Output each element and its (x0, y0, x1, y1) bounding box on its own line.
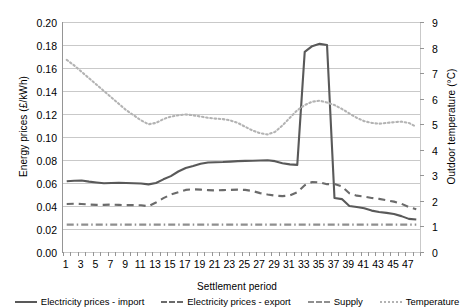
chart-legend: Electricity prices - import Electricity … (0, 296, 474, 307)
plot-area (62, 22, 420, 253)
x-tick-label: 13 (147, 259, 163, 269)
series-dashed (67, 182, 417, 209)
y-tick-label: 0.04 (23, 202, 57, 212)
x-tick-label: 7 (102, 259, 118, 269)
y-tick-label: 0.02 (23, 225, 57, 235)
x-tick-label: 27 (251, 259, 267, 269)
x-tick-label: 5 (87, 259, 103, 269)
x-tick-label: 39 (340, 259, 356, 269)
y2-tick-label: 6 (432, 95, 452, 105)
y-tick-label: 0.06 (23, 179, 57, 189)
y2-tick-label: 7 (432, 69, 452, 79)
y2-tick-label: 9 (432, 18, 452, 28)
y2-tick-label: 2 (432, 197, 452, 207)
x-tick-label: 23 (221, 259, 237, 269)
x-tick-label: 15 (162, 259, 178, 269)
x-tick-label: 45 (385, 259, 401, 269)
x-tick-label: 47 (400, 259, 416, 269)
legend-line-dashdot-icon (308, 301, 330, 303)
x-tick-label: 41 (355, 259, 371, 269)
y-tick-label: 0.12 (23, 110, 57, 120)
legend-line-solid-icon (15, 301, 37, 303)
y2-tick-label: 0 (432, 248, 452, 258)
legend-label: Supply (334, 296, 363, 307)
series-dotted (67, 60, 417, 135)
x-tick-label: 35 (311, 259, 327, 269)
x-tick-label: 25 (236, 259, 252, 269)
legend-item-temperature: Temperature (380, 296, 459, 307)
y2-tick-label: 4 (432, 146, 452, 156)
x-tick-label: 31 (281, 259, 297, 269)
x-tick-label: 29 (266, 259, 282, 269)
y2-tick-label: 8 (432, 44, 452, 54)
x-tick-label: 9 (117, 259, 133, 269)
y-tick-label: 0.14 (23, 87, 57, 97)
x-tick-label: 37 (325, 259, 341, 269)
legend-label: Electricity prices - export (187, 296, 290, 307)
legend-label: Temperature (406, 296, 459, 307)
legend-line-dotted-icon (380, 301, 402, 303)
y2-tick-label: 5 (432, 120, 452, 130)
y-tick-label: 0.16 (23, 64, 57, 74)
axis-ticks (64, 23, 425, 257)
x-tick-label: 1 (58, 259, 74, 269)
x-tick-label: 19 (192, 259, 208, 269)
legend-item-import: Electricity prices - import (15, 296, 144, 307)
y2-tick-label: 3 (432, 171, 452, 181)
legend-item-supply: Supply (308, 296, 363, 307)
y-tick-label: 0.18 (23, 41, 57, 51)
data-series (67, 44, 417, 225)
x-tick-label: 33 (296, 259, 312, 269)
x-tick-label: 21 (206, 259, 222, 269)
legend-line-dashed-icon (161, 301, 183, 303)
x-axis-title: Settlement period (0, 281, 474, 292)
x-tick-label: 17 (177, 259, 193, 269)
x-tick-label: 3 (73, 259, 89, 269)
plot-svg (63, 22, 420, 253)
y2-tick-label: 1 (432, 222, 452, 232)
series-solid (67, 44, 417, 220)
gridlines (63, 22, 421, 253)
y-tick-label: 0.00 (23, 248, 57, 258)
y-tick-label: 0.10 (23, 133, 57, 143)
x-tick-label: 11 (132, 259, 148, 269)
y-tick-label: 0.08 (23, 156, 57, 166)
legend-item-export: Electricity prices - export (161, 296, 290, 307)
x-tick-label: 43 (370, 259, 386, 269)
y-tick-label: 0.20 (23, 18, 57, 28)
legend-label: Electricity prices - import (41, 296, 144, 307)
